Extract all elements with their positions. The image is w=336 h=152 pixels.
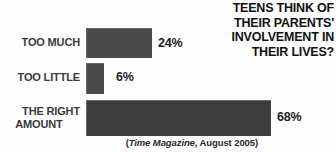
bar-category-label-the-right-amount: THE RIGHT AMOUNT (0, 105, 80, 130)
bar-too-little (86, 63, 104, 94)
source-publication: Time Magazine (129, 137, 195, 148)
bar-row-the-right-amount: THE RIGHT AMOUNT 68% (0, 100, 336, 136)
bar-category-label-line: TOO LITTLE (0, 71, 80, 84)
bar-too-much (86, 28, 152, 58)
bar-row-too-much: TOO MUCH 24% (0, 28, 336, 59)
source-note: (Time Magazine, August 2005) (0, 137, 258, 148)
bar-category-label-line: AMOUNT (0, 118, 80, 131)
bar-the-right-amount (86, 100, 271, 136)
bar-category-label-too-little: TOO LITTLE (0, 71, 80, 84)
bar-category-label-too-much: TOO MUCH (0, 36, 80, 49)
bar-value-too-little: 6% (116, 70, 134, 84)
chart-title-line-1: TEENS THINK OF (154, 1, 334, 16)
bar-chart: TEENS THINK OF THEIR PARENTS' INVOLVEMEN… (0, 0, 336, 152)
source-rest: , August 2005) (195, 137, 258, 148)
bar-category-label-line: THE RIGHT (0, 105, 80, 118)
bar-category-label-line: TOO MUCH (0, 36, 80, 49)
bar-value-too-much: 24% (158, 36, 182, 50)
bar-value-the-right-amount: 68% (277, 110, 301, 124)
bar-row-too-little: TOO LITTLE 6% (0, 63, 336, 94)
